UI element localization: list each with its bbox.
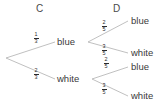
probability-tree-diagram: C D 1 3 2 3 blue white 2 5 3 5 2 5 3 5 b… [0,0,167,104]
probability-stage2-white-white: 3 5 [99,83,109,96]
fraction-numerator: 2 [99,20,109,26]
node-stage2-blue-white: white [131,48,153,58]
edge-white-to-white [92,79,128,96]
column-header-c: C [36,4,43,14]
node-stage2-white-blue: blue [131,62,149,72]
fraction-numerator: 1 [31,32,41,38]
fraction-numerator: 3 [99,83,109,89]
fraction-denominator: 5 [99,90,109,96]
fraction-numerator: 3 [99,44,109,50]
fraction-denominator: 3 [31,75,41,81]
node-stage2-white-white: white [131,91,153,101]
probability-stage1-blue: 1 3 [31,32,41,45]
column-header-d: D [113,4,120,14]
fraction-numerator: 2 [101,57,111,63]
probability-stage2-blue-blue: 2 5 [99,20,109,33]
node-stage2-blue-blue: blue [131,16,149,26]
probability-stage2-blue-white: 3 5 [99,44,109,57]
fraction-numerator: 2 [31,68,41,74]
fraction-denominator: 5 [101,64,111,70]
fraction-denominator: 5 [99,27,109,33]
node-stage1-white: white [57,74,79,84]
node-stage1-blue: blue [57,37,75,47]
probability-stage2-white-blue: 2 5 [101,57,111,70]
probability-stage1-white: 2 3 [31,68,41,81]
fraction-denominator: 3 [31,39,41,45]
